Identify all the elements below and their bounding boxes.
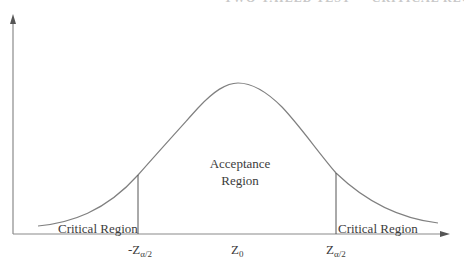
left-critical-value-label: -Zα/2 [128, 243, 152, 261]
acceptance-label-line2: Region [195, 174, 285, 188]
left-critical-region-label: Critical Region [58, 222, 138, 236]
center-value-label: Z0 [231, 243, 243, 261]
left-critical-subscript: α/2 [140, 249, 152, 259]
x-axis-arrow-icon [440, 231, 450, 237]
left-critical-value: -Z [128, 242, 140, 257]
bell-curve [38, 83, 438, 226]
right-critical-value: Z [326, 242, 334, 257]
acceptance-label-line1: Acceptance [195, 157, 285, 171]
y-axis-arrow-icon [10, 14, 16, 24]
acceptance-region-label: Acceptance Region [195, 157, 285, 188]
center-subscript: 0 [239, 249, 244, 259]
center-value: Z [231, 242, 239, 257]
right-critical-subscript: α/2 [334, 249, 346, 259]
right-critical-region-label: Critical Region [338, 222, 418, 236]
right-critical-value-label: Zα/2 [326, 243, 346, 261]
